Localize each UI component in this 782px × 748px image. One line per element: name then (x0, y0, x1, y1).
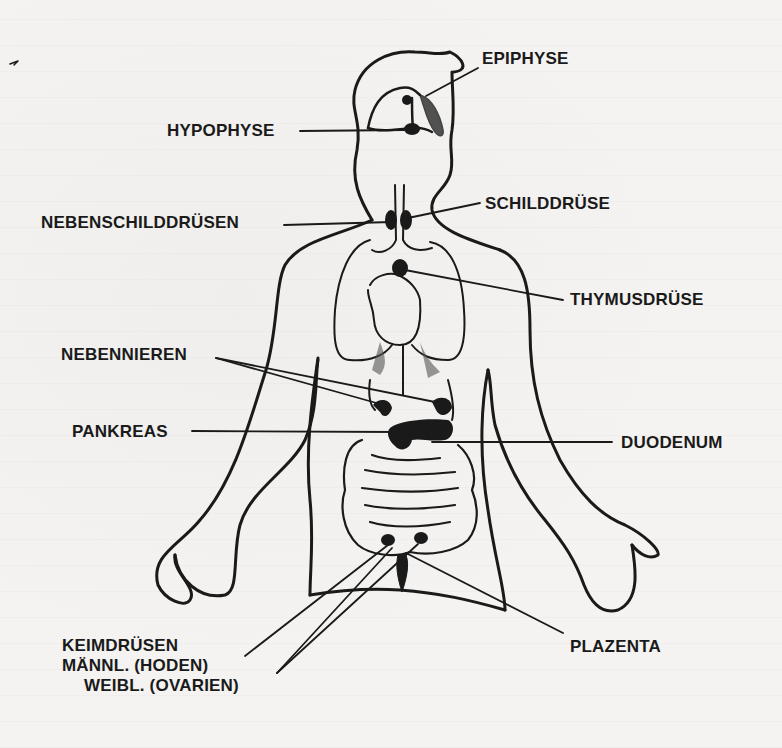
label-duodenum: DUODENUM (621, 434, 723, 451)
label-keimdruesen-maennl: MÄNNL. (HODEN) (62, 656, 239, 676)
plazenta-uterus (397, 555, 408, 592)
label-keimdruesen-weibl: WEIBL. (OVARIEN) (62, 676, 239, 696)
leader-hypophyse (300, 130, 404, 131)
leader-thymusdruese (405, 270, 563, 300)
ovary-right (414, 532, 428, 544)
label-hypophyse: HYPOPHYSE (167, 122, 275, 139)
schilddruese-gland-right (400, 210, 412, 230)
nebenschilddruesen-gland-left (385, 210, 397, 230)
nebenniere-right (432, 398, 452, 415)
label-keimdruesen-title: KEIMDRÜSEN (62, 636, 239, 656)
hypophyse-gland (404, 123, 420, 135)
intestines (343, 440, 477, 555)
leader-nebenschilddruesen (284, 222, 392, 225)
label-epiphyse: EPIPHYSE (482, 50, 569, 67)
brain-outline (368, 87, 432, 132)
leader-schilddruese (408, 203, 480, 218)
label-pankreas: PANKREAS (72, 423, 168, 440)
epiphyse-gland (402, 95, 412, 105)
leader-keimdruesen-ovarien-a (277, 544, 418, 673)
leader-keimdruesen-hoden (245, 545, 388, 656)
leader-keimdruesen-ovarien-b (277, 548, 392, 673)
lungs-heart (334, 240, 464, 360)
label-keimdruesen: KEIMDRÜSEN MÄNNL. (HODEN) WEIBL. (OVARIE… (62, 636, 239, 696)
pankreas-gland (388, 419, 453, 449)
label-plazenta: PLAZENTA (570, 638, 661, 655)
label-schilddruese: SCHILDDRÜSE (485, 195, 610, 212)
leader-nebenniere-left (216, 358, 380, 404)
stray-mark (10, 61, 18, 65)
label-nebennieren: NEBENNIEREN (61, 346, 187, 363)
thymusdruese-gland (392, 259, 408, 277)
label-thymusdruese: THYMUSDRÜSE (570, 291, 704, 308)
leader-pankreas (192, 431, 398, 432)
leader-nebenniere-right (216, 358, 440, 403)
label-nebenschilddruesen: NEBENSCHILDDRÜSEN (41, 214, 239, 231)
